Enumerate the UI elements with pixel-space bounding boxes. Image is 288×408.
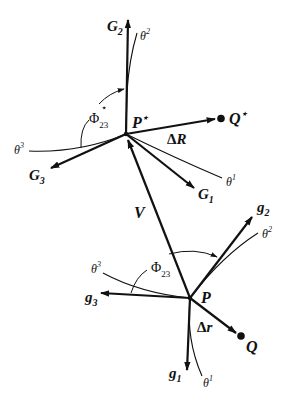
theta1-curve-lower: [189, 298, 202, 376]
phi23-arc-upper: [169, 251, 217, 257]
g3-lower-label: g3: [84, 289, 98, 308]
v-label: V: [134, 204, 146, 221]
theta2-upper-label: θ2: [140, 27, 150, 43]
lower-frame: g2 θ2 Φ23 θ3 g3 P Δr Q g1 θ1: [84, 199, 272, 390]
p-label: P: [200, 289, 211, 306]
q-star-label: Q⋆: [229, 108, 248, 127]
q-point: [237, 332, 245, 340]
phi23-star-arc: [81, 120, 89, 148]
g2-lower-vector: [190, 217, 252, 298]
base-vectors-diagram: G2 θ2 Φ23 ⋆ P⋆ Q⋆ ΔR θ3 G3 θ1 G1: [0, 0, 288, 408]
theta1-upper-label: θ1: [226, 173, 236, 189]
delta-r-lower-label: Δr: [197, 319, 212, 335]
phi23-star-sup: ⋆: [101, 102, 107, 113]
upper-frame: G2 θ2 Φ23 ⋆ P⋆ Q⋆ ΔR θ3 G3 θ1 G1: [14, 18, 248, 205]
theta3-upper-label: θ3: [14, 141, 24, 157]
theta1-lower-label: θ1: [203, 374, 213, 390]
g1-lower-vector: [187, 298, 190, 370]
g3-upper-vector: [51, 134, 126, 168]
g1-upper-label: G1: [198, 186, 214, 205]
g2-upper-label: G2: [107, 18, 123, 37]
q-star-point: [217, 115, 225, 123]
p-point: [188, 296, 192, 300]
g2-upper-vector: [126, 20, 128, 134]
delta-r-upper-label: ΔR: [167, 131, 186, 147]
g3-upper-label: G3: [29, 167, 45, 186]
g1-lower-label: g1: [168, 365, 182, 384]
g2-lower-label: g2: [256, 199, 270, 218]
p-star-point: [124, 132, 128, 136]
p-star-label: P⋆: [131, 112, 149, 131]
q-label: Q: [246, 338, 258, 355]
theta2-lower-label: θ2: [262, 225, 272, 241]
phi23-star-label: Φ23: [89, 111, 109, 130]
theta3-lower-label: θ3: [91, 260, 101, 276]
g3-lower-vector: [101, 293, 190, 298]
theta3-curve-upper: [29, 134, 126, 151]
phi23-label: Φ23: [151, 260, 171, 279]
